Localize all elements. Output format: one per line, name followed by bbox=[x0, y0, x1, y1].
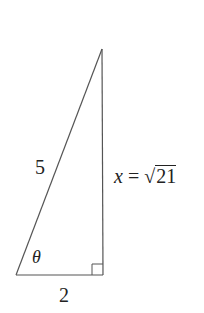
square-root: √21 bbox=[144, 165, 176, 186]
adjacent-label: 2 bbox=[59, 285, 69, 305]
equals-sign: = bbox=[128, 165, 139, 187]
right-angle-marker bbox=[92, 264, 103, 275]
triangle-figure bbox=[0, 0, 204, 313]
hypotenuse-side bbox=[16, 49, 102, 275]
hypotenuse-label: 5 bbox=[35, 157, 45, 177]
opposite-side-label: x = √21 bbox=[114, 165, 176, 186]
opposite-side bbox=[102, 49, 103, 275]
variable-x: x bbox=[114, 165, 123, 187]
angle-theta-label: θ bbox=[32, 248, 41, 266]
radicand: 21 bbox=[155, 165, 176, 186]
radical-sign-icon: √ bbox=[144, 165, 155, 187]
